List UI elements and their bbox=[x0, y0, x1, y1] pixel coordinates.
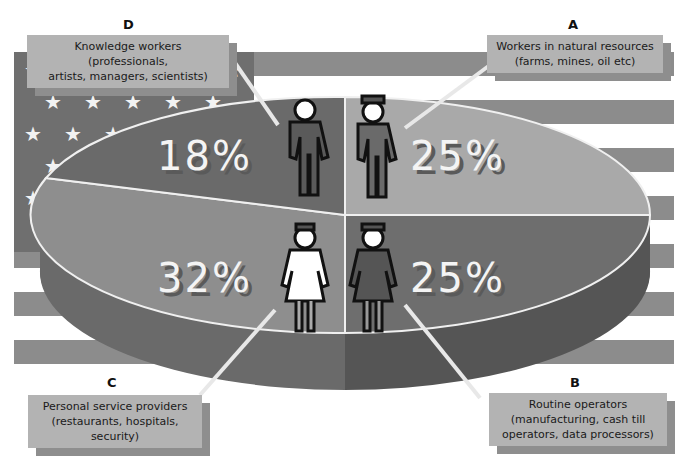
label-a-letter: A bbox=[568, 17, 578, 32]
label-d-letter: D bbox=[123, 17, 134, 32]
slice-b-percent: 25% bbox=[410, 255, 505, 301]
label-c-letter: C bbox=[107, 375, 117, 390]
slice-c-percent: 32% bbox=[157, 255, 252, 301]
label-b-letter: B bbox=[570, 375, 580, 390]
label-a: Workers in natural resources (farms, min… bbox=[487, 35, 663, 73]
label-d: Knowledge workers (professionals, artist… bbox=[27, 35, 229, 88]
label-c: Personal service providers (restaurants,… bbox=[28, 395, 202, 448]
slice-a-percent: 25% bbox=[410, 133, 505, 179]
label-b: Routine operators (manufacturing, cash t… bbox=[489, 393, 667, 446]
slice-d-percent: 18% bbox=[157, 133, 252, 179]
